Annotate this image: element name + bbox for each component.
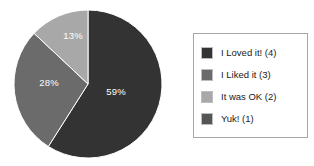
legend-item-ok: It was OK (2) [201,86,307,108]
legend-swatch-icon-liked [201,69,213,81]
legend-swatch-icon-yuk [201,113,213,125]
legend-item-yuk: Yuk! (1) [201,108,307,130]
legend-label-loved: I Loved it! (4) [221,48,276,58]
legend-item-loved: I Loved it! (4) [201,42,307,64]
legend-label-liked: I Liked it (3) [221,70,271,80]
chart-legend: I Loved it! (4) I Liked it (3) It was OK… [193,33,308,138]
legend-item-liked: I Liked it (3) [201,64,307,86]
pie-slice-group [14,10,162,158]
pie-slice-label-ok: 13% [63,30,83,41]
legend-swatch-icon-ok [201,91,213,103]
legend-label-yuk: Yuk! (1) [221,114,254,124]
pie-svg: 59% 28% 13% [13,9,163,159]
pie-chart-figure: 59% 28% 13% I Loved it! (4) I Liked it (… [0,0,314,166]
pie-chart-plot-area: 59% 28% 13% [13,9,163,159]
legend-label-ok: It was OK (2) [221,92,276,102]
pie-slice-label-loved: 59% [106,86,126,97]
pie-slice-label-liked: 28% [39,77,59,88]
legend-swatch-icon-loved [201,47,213,59]
